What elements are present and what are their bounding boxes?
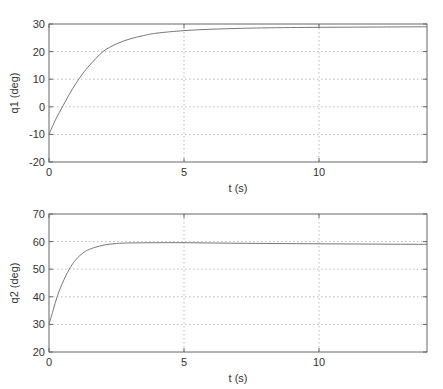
x-tick-label: 0 — [46, 356, 52, 368]
y-tick-label: 50 — [33, 263, 45, 275]
y-tick-label: 70 — [33, 208, 45, 220]
series-line-q1 — [49, 27, 427, 135]
y-tick-label: -20 — [29, 156, 45, 168]
axes-box — [49, 24, 427, 162]
y-axis-label: q1 (deg) — [8, 73, 20, 114]
x-axis-label: t (s) — [229, 182, 248, 194]
x-tick-label: 10 — [313, 356, 325, 368]
x-axis-label: t (s) — [229, 372, 248, 384]
grid — [49, 24, 427, 162]
subplot-2: 2030405060700510t (s)q2 (deg) — [8, 208, 427, 384]
x-tick-label: 5 — [181, 166, 187, 178]
y-tick-label: 10 — [33, 73, 45, 85]
figure: -20-1001020300510t (s)q1 (deg)2030405060… — [0, 0, 443, 389]
y-tick-label: 40 — [33, 291, 45, 303]
y-tick-label: 20 — [33, 346, 45, 358]
grid — [49, 214, 427, 352]
y-axis-label: q2 (deg) — [8, 263, 20, 304]
y-tick-label: 0 — [39, 101, 45, 113]
y-tick-label: 30 — [33, 318, 45, 330]
y-tick-label: 60 — [33, 236, 45, 248]
y-tick-label: 20 — [33, 46, 45, 58]
y-tick-label: -10 — [29, 128, 45, 140]
series-line-q2 — [49, 243, 427, 325]
subplot-1: -20-1001020300510t (s)q1 (deg) — [8, 18, 427, 194]
x-tick-label: 10 — [313, 166, 325, 178]
axes-box — [49, 214, 427, 352]
y-tick-label: 30 — [33, 18, 45, 30]
x-tick-label: 0 — [46, 166, 52, 178]
x-tick-label: 5 — [181, 356, 187, 368]
